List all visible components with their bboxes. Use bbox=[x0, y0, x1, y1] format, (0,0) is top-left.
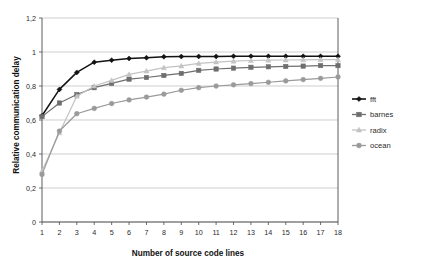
x-tick-label: 3 bbox=[75, 228, 79, 237]
y-tick-label: 0,6 bbox=[26, 116, 36, 125]
x-tick-label: 10 bbox=[195, 228, 203, 237]
x-tick-label: 1 bbox=[40, 228, 44, 237]
data-point-ocean bbox=[127, 98, 132, 103]
x-tick-label: 15 bbox=[282, 228, 290, 237]
data-point-ocean bbox=[336, 75, 341, 80]
data-point-barnes bbox=[179, 71, 183, 75]
data-point-barnes bbox=[301, 64, 305, 68]
data-point-ocean bbox=[144, 95, 149, 100]
x-tick-label: 17 bbox=[317, 228, 325, 237]
data-point-ocean bbox=[40, 172, 45, 177]
data-point-barnes bbox=[249, 65, 253, 69]
legend-label-barnes: barnes bbox=[370, 110, 393, 119]
data-point-barnes bbox=[127, 77, 131, 81]
data-point-barnes bbox=[57, 101, 61, 105]
legend-marker-ocean bbox=[357, 143, 362, 148]
data-point-ocean bbox=[57, 129, 62, 134]
data-point-barnes bbox=[284, 64, 288, 68]
x-tick-label: 12 bbox=[230, 228, 238, 237]
x-tick-label: 9 bbox=[179, 228, 183, 237]
data-point-ocean bbox=[196, 85, 201, 90]
y-tick-label: 0,4 bbox=[26, 150, 36, 159]
x-tick-label: 7 bbox=[144, 228, 148, 237]
data-point-barnes bbox=[162, 73, 166, 77]
data-point-ocean bbox=[162, 92, 167, 97]
data-point-barnes bbox=[318, 63, 322, 67]
data-point-ocean bbox=[74, 111, 79, 116]
x-tick-label: 14 bbox=[264, 228, 272, 237]
line-chart: 00,20,40,60,811,2 1234567891011121314151… bbox=[0, 0, 439, 265]
y-tick-label: 0 bbox=[32, 218, 36, 227]
y-tick-label: 0,2 bbox=[26, 184, 36, 193]
x-tick-label: 6 bbox=[127, 228, 131, 237]
y-tick-label: 1,2 bbox=[26, 14, 36, 23]
data-point-ocean bbox=[283, 79, 288, 84]
data-point-barnes bbox=[197, 68, 201, 72]
x-tick-label: 11 bbox=[212, 228, 219, 237]
data-point-ocean bbox=[92, 106, 97, 111]
data-point-barnes bbox=[214, 67, 218, 71]
chart-figure: 00,20,40,60,811,2 1234567891011121314151… bbox=[0, 0, 439, 265]
data-point-barnes bbox=[40, 114, 44, 118]
data-point-barnes bbox=[266, 65, 270, 69]
data-point-ocean bbox=[249, 81, 254, 86]
y-tick-label: 1 bbox=[32, 48, 36, 57]
x-tick-label: 4 bbox=[92, 228, 96, 237]
data-point-ocean bbox=[231, 82, 236, 87]
legend-marker-barnes bbox=[357, 112, 362, 117]
data-point-ocean bbox=[179, 88, 184, 93]
x-tick-label: 16 bbox=[299, 228, 307, 237]
data-point-ocean bbox=[214, 84, 219, 89]
data-point-barnes bbox=[144, 75, 148, 79]
data-point-ocean bbox=[318, 76, 323, 81]
data-point-ocean bbox=[266, 80, 271, 85]
data-point-ocean bbox=[301, 77, 306, 82]
data-point-barnes bbox=[336, 63, 340, 67]
x-tick-label: 8 bbox=[162, 228, 166, 237]
x-axis-title: Number of source code lines bbox=[132, 249, 245, 258]
x-tick-label: 5 bbox=[110, 228, 114, 237]
legend-label-ocean: ocean bbox=[370, 141, 391, 150]
data-point-ocean bbox=[109, 101, 114, 106]
data-point-barnes bbox=[231, 66, 235, 70]
x-tick-label: 2 bbox=[57, 228, 61, 237]
y-tick-label: 0,8 bbox=[26, 82, 36, 91]
y-axis-title: Relative communication delay bbox=[12, 56, 21, 174]
x-tick-label: 18 bbox=[334, 228, 342, 237]
legend-label-fft: fft bbox=[370, 95, 377, 104]
legend-label-radix: radix bbox=[370, 126, 387, 135]
x-tick-label: 13 bbox=[247, 228, 255, 237]
